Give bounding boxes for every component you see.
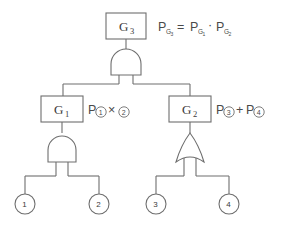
gate-box-g2-label: G [182, 102, 191, 117]
left-formula-term2: 2 [122, 109, 126, 116]
gate-box-g3-subscript: 3 [130, 26, 134, 36]
left-formula-operator: × [108, 103, 115, 117]
fault-tree-diagram: G 3 P G 3 = P G 1 · P G 2 G 1 P 1 × 2 [0, 0, 281, 231]
gate-box-g1-label: G [54, 102, 63, 117]
or-gate-icon-g2[interactable] [176, 133, 204, 162]
top-formula-operator: · [208, 18, 212, 32]
and-gate-icon-g3[interactable] [111, 49, 141, 75]
basic-event-3-label: 3 [153, 200, 158, 209]
left-formula-term1: 1 [99, 109, 103, 116]
top-formula: P G 3 = P G 1 · P G 2 [158, 18, 232, 37]
gate-box-g2-subscript: 2 [193, 109, 197, 119]
top-formula-p3-sub2: 2 [229, 31, 232, 37]
fault-tree-canvas: G 3 P G 3 = P G 1 · P G 2 G 1 P 1 × 2 [0, 0, 281, 231]
top-formula-p2-sub2: 1 [203, 31, 206, 37]
basic-event-1-label: 1 [22, 200, 27, 209]
left-formula-p: P [88, 103, 96, 117]
right-formula-p2: P [246, 103, 254, 117]
right-gate-formula: P 3 + P 4 [216, 103, 264, 117]
right-formula-term1: 3 [227, 109, 231, 116]
left-gate-formula: P 1 × 2 [88, 103, 129, 117]
gate-box-g3-label: G [119, 19, 128, 34]
top-formula-p1-sub2: 3 [171, 31, 174, 37]
top-formula-equals: = [177, 20, 184, 34]
basic-event-4-label: 4 [226, 200, 231, 209]
right-formula-operator: + [236, 103, 243, 117]
right-formula-p1: P [216, 103, 224, 117]
and-gate-icon-g1[interactable] [48, 136, 76, 162]
right-formula-term2: 4 [257, 109, 261, 116]
basic-event-2-label: 2 [96, 200, 101, 209]
gate-box-g1-subscript: 1 [65, 109, 69, 119]
